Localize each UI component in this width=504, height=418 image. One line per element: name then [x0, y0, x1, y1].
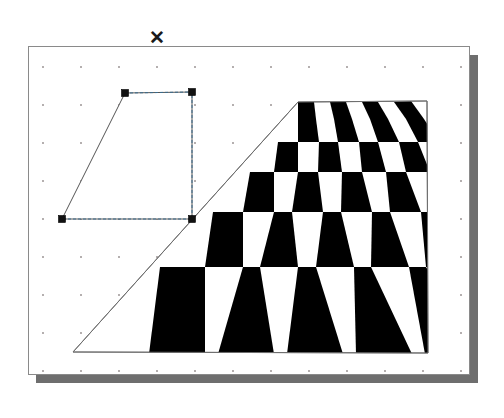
top-right-handle[interactable] — [189, 89, 196, 96]
application-window: ✕ — [0, 0, 504, 418]
bottom-left-handle[interactable] — [59, 216, 66, 223]
bottom-right-handle[interactable] — [189, 216, 196, 223]
selected-shape[interactable] — [59, 89, 196, 223]
top-left-handle[interactable] — [122, 90, 129, 97]
trapezoid-path[interactable] — [62, 92, 192, 219]
canvas-vector-layer — [29, 47, 469, 374]
drawing-canvas[interactable] — [28, 46, 470, 375]
